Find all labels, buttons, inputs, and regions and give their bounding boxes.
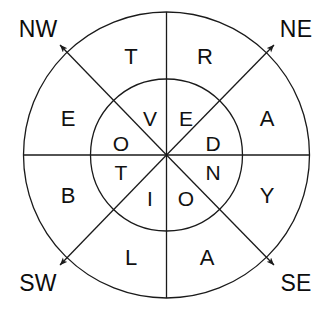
outer-letter-r: R [197, 46, 213, 68]
inner-letter-t: T [115, 162, 128, 183]
compass-label-se: SE [280, 272, 311, 295]
outer-letter-b: B [61, 185, 76, 207]
inner-letter-o-west: O [113, 133, 129, 154]
outer-letter-a-se: A [200, 247, 215, 269]
compass-label-ne: NE [280, 18, 312, 41]
inner-letter-n: N [205, 162, 220, 183]
inner-letter-o-south: O [178, 188, 194, 209]
compass-word-wheel-figure: NW NE SW SE T R A Y A L B E V E D N O I … [0, 0, 333, 309]
compass-label-nw: NW [19, 18, 58, 41]
outer-letter-t: T [124, 46, 137, 68]
compass-label-sw: SW [19, 272, 56, 295]
outer-letter-a-ne: A [260, 108, 275, 130]
inner-letter-e: E [179, 108, 193, 129]
arrow-sw [60, 155, 167, 265]
outer-letter-e: E [61, 108, 76, 130]
inner-letter-v: V [143, 108, 157, 129]
inner-letter-d: D [205, 133, 220, 154]
outer-letter-l: L [125, 247, 137, 269]
wheel-diagram [0, 0, 333, 309]
inner-letter-i: I [147, 188, 153, 209]
outer-letter-y: Y [260, 185, 275, 207]
